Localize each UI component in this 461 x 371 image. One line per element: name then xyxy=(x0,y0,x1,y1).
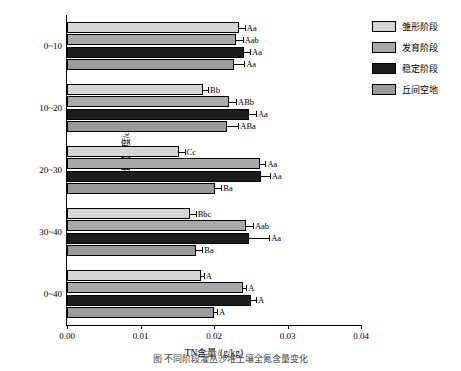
x-axis-tick xyxy=(214,325,215,329)
error-bar-cap xyxy=(253,223,254,229)
y-axis-tick-label: 30~40 xyxy=(39,227,62,237)
error-bar-cap xyxy=(250,49,251,55)
legend-label: 发育阶段 xyxy=(402,41,438,54)
bar[interactable] xyxy=(67,245,196,256)
error-bar-cap xyxy=(269,235,270,241)
bar[interactable] xyxy=(67,146,179,157)
error-bar xyxy=(249,114,256,115)
bar-row: Ba xyxy=(67,245,361,256)
legend-item[interactable]: 雏形阶段 xyxy=(372,18,458,34)
error-bar-cap xyxy=(208,87,209,93)
error-bar-cap xyxy=(221,185,222,191)
bar-row: A xyxy=(67,307,361,318)
bar[interactable] xyxy=(67,121,227,132)
bar-row: A xyxy=(67,295,361,306)
error-bar-cap xyxy=(246,285,247,291)
error-bar-cap xyxy=(245,25,246,31)
legend-swatch xyxy=(372,84,396,95)
bar[interactable] xyxy=(67,220,246,231)
significance-label: Bbc xyxy=(198,209,212,219)
bar[interactable] xyxy=(67,270,201,281)
significance-label: Aa xyxy=(258,109,268,119)
bar-row: A xyxy=(67,270,361,281)
legend-swatch xyxy=(372,63,396,74)
bar[interactable] xyxy=(67,22,239,33)
significance-label: A xyxy=(219,307,225,317)
y-axis-tick-label: 10~20 xyxy=(39,103,62,113)
significance-label: Aa xyxy=(271,233,281,243)
bar[interactable] xyxy=(67,34,236,45)
x-axis-tick-label: 0.00 xyxy=(59,331,75,341)
bar[interactable] xyxy=(67,307,214,318)
bar-row: Bb xyxy=(67,84,361,95)
bar[interactable] xyxy=(67,47,244,58)
error-bar xyxy=(236,40,243,41)
bar[interactable] xyxy=(67,109,249,120)
legend-item[interactable]: 发育阶段 xyxy=(372,39,458,55)
error-bar-cap xyxy=(243,37,244,43)
significance-label: Aab xyxy=(245,35,259,45)
significance-label: Bb xyxy=(210,85,220,95)
significance-label: ABa xyxy=(240,121,256,131)
bar-row: Aa xyxy=(67,158,361,169)
significance-label: Cc xyxy=(187,147,196,157)
bar[interactable] xyxy=(67,183,215,194)
x-axis-tick xyxy=(67,325,68,329)
error-bar-cap xyxy=(185,149,186,155)
error-bar xyxy=(229,102,236,103)
significance-label: Ba xyxy=(204,245,213,255)
legend-label: 丘间空地 xyxy=(402,83,438,96)
error-bar-cap xyxy=(196,211,197,217)
figure-container: 土层深度/cm 0~1010~2020~3030~400~40 0.000.01… xyxy=(0,0,461,371)
significance-label: Aa xyxy=(247,23,257,33)
bar[interactable] xyxy=(67,59,234,70)
significance-label: ABb xyxy=(238,97,254,107)
bar[interactable] xyxy=(67,158,260,169)
legend-label: 雏形阶段 xyxy=(402,20,438,33)
significance-label: Aa xyxy=(272,171,282,181)
significance-label: A xyxy=(258,295,264,305)
significance-label: A xyxy=(206,271,212,281)
x-axis-tick xyxy=(361,325,362,329)
x-axis-tick-label: 0.03 xyxy=(280,331,296,341)
error-bar xyxy=(234,64,244,65)
bar-row: Aab xyxy=(67,34,361,45)
legend-swatch xyxy=(372,42,396,53)
bar-row: Bbc xyxy=(67,208,361,219)
legend-swatch xyxy=(372,21,396,32)
bar[interactable] xyxy=(67,295,251,306)
error-bar-cap xyxy=(244,61,245,67)
x-axis-tick xyxy=(141,325,142,329)
bar[interactable] xyxy=(67,233,249,244)
legend-item[interactable]: 丘间空地 xyxy=(372,81,458,97)
y-axis-tick-label: 0~10 xyxy=(44,41,62,51)
bar-row: Cc xyxy=(67,146,361,157)
error-bar xyxy=(246,226,253,227)
bar-row: Aa xyxy=(67,233,361,244)
y-axis-tick-label: 0~40 xyxy=(44,289,62,299)
legend-label: 稳定阶段 xyxy=(402,62,438,75)
bar[interactable] xyxy=(67,96,229,107)
error-bar-cap xyxy=(238,123,239,129)
bar[interactable] xyxy=(67,208,190,219)
plot-area: 土层深度/cm 0~1010~2020~3030~400~40 0.000.01… xyxy=(66,15,361,326)
legend: 雏形阶段发育阶段稳定阶段丘间空地 xyxy=(372,18,458,102)
bar-row: ABa xyxy=(67,121,361,132)
bar-row: ABb xyxy=(67,96,361,107)
bar-row: Aa xyxy=(67,22,361,33)
error-bar-cap xyxy=(236,99,237,105)
error-bar xyxy=(261,176,270,177)
significance-label: Aa xyxy=(252,47,262,57)
x-axis-tick-label: 0.01 xyxy=(133,331,149,341)
bar-row: Aa xyxy=(67,109,361,120)
figure-caption: 图 不同阶段灌丛沙堆土壤全氮含量变化 xyxy=(0,352,461,365)
bar-row: Aa xyxy=(67,171,361,182)
legend-item[interactable]: 稳定阶段 xyxy=(372,60,458,76)
bar[interactable] xyxy=(67,171,261,182)
bar[interactable] xyxy=(67,282,243,293)
error-bar-cap xyxy=(256,297,257,303)
bar[interactable] xyxy=(67,84,203,95)
error-bar-cap xyxy=(265,161,266,167)
significance-label: Aa xyxy=(267,159,277,169)
significance-label: Aa xyxy=(246,59,256,69)
